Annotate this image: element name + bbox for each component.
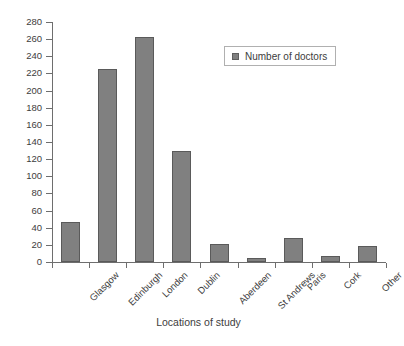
x-axis-tick: [163, 263, 164, 268]
x-axis-title: Locations of study: [0, 316, 397, 328]
y-axis-tick: [46, 125, 52, 126]
y-axis-tick-label: 280: [26, 17, 42, 27]
y-axis-tick: [46, 39, 52, 40]
bar: [135, 37, 154, 262]
y-axis-tick-label: 200: [26, 86, 42, 96]
x-axis-category-label: Other: [380, 270, 404, 294]
y-axis-line: [52, 22, 53, 263]
y-axis-tick: [46, 211, 52, 212]
x-axis-category-label: Glasgow: [87, 270, 120, 303]
y-axis-tick-label: 220: [26, 68, 42, 78]
y-axis-tick-label: 160: [26, 120, 42, 130]
y-axis-tick-label: 20: [31, 240, 42, 250]
y-axis-tick: [46, 245, 52, 246]
x-axis-tick: [238, 263, 239, 268]
y-axis-tick-label: 100: [26, 171, 42, 181]
y-axis-tick: [46, 142, 52, 143]
y-axis-tick-label: 180: [26, 103, 42, 113]
x-axis-category-label: Cork: [342, 270, 363, 291]
bar: [210, 244, 229, 262]
y-axis-tick: [46, 159, 52, 160]
y-axis-tick-label: 240: [26, 51, 42, 61]
x-axis-line: [52, 262, 386, 263]
y-axis-tick: [46, 73, 52, 74]
y-axis-tick: [46, 91, 52, 92]
y-axis-tick: [46, 108, 52, 109]
bar: [98, 69, 117, 262]
y-axis-tick-label: 0: [37, 257, 42, 267]
x-axis-tick: [200, 263, 201, 268]
bar: [321, 256, 340, 262]
y-axis-tick: [46, 176, 52, 177]
y-axis-tick-label: 260: [26, 34, 42, 44]
bar: [358, 246, 377, 262]
bar: [61, 222, 80, 262]
x-axis-category-label: Aberdeen: [237, 270, 273, 306]
bar: [247, 258, 266, 262]
legend: Number of doctors: [224, 46, 336, 66]
x-axis-category-label: London: [160, 270, 189, 299]
y-axis-tick: [46, 22, 52, 23]
y-axis-tick-label: 60: [31, 206, 42, 216]
x-axis-tick: [126, 263, 127, 268]
y-axis-tick-label: 80: [31, 188, 42, 198]
y-axis-tick: [46, 228, 52, 229]
y-axis-tick-label: 40: [31, 223, 42, 233]
bar: [284, 238, 303, 262]
legend-swatch-icon: [232, 53, 239, 60]
legend-label: Number of doctors: [245, 51, 327, 62]
y-axis-tick-label: 120: [26, 154, 42, 164]
x-axis-tick: [386, 263, 387, 268]
x-axis-tick: [89, 263, 90, 268]
x-axis-tick: [349, 263, 350, 268]
x-axis-tick: [275, 263, 276, 268]
x-axis-category-label: Edinburgh: [126, 270, 164, 308]
x-axis-tick: [52, 263, 53, 268]
bar: [172, 151, 191, 262]
x-axis-tick: [312, 263, 313, 268]
y-axis-tick: [46, 193, 52, 194]
x-axis-category-label: Dublin: [196, 270, 222, 296]
y-axis-tick-label: 140: [26, 137, 42, 147]
y-axis-tick: [46, 56, 52, 57]
